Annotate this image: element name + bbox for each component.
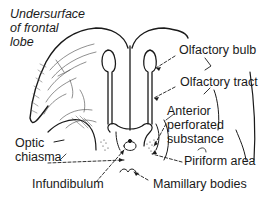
olfactory-bulb-leader	[156, 56, 175, 68]
title-line-3: lobe	[10, 35, 100, 49]
label-olfactory-tract: Olfactory tract	[180, 75, 258, 89]
label-infundibulum: Infundibulum	[32, 177, 104, 191]
brain-underside-diagram: Undersurface of frontal lobe Olfactory b…	[0, 0, 264, 201]
olfactory-tract-leader	[154, 87, 175, 98]
title-line-1: Undersurface	[10, 7, 100, 21]
right-olfactory-bulb-tract	[144, 50, 157, 124]
mamillary-bodies	[120, 169, 136, 172]
label-olfactory-bulb: Olfactory bulb	[179, 43, 256, 57]
label-line-anterior: Anterior	[167, 104, 247, 118]
label-piriform-area: Piriform area	[184, 154, 256, 168]
label-mamillary-bodies: Mamillary bodies	[153, 177, 247, 191]
label-line-optic: Optic	[15, 136, 65, 150]
label-line-chiasma: chiasma	[15, 150, 65, 164]
title-undersurface-frontal-lobe: Undersurface of frontal lobe	[10, 7, 100, 49]
piriform-leader	[152, 154, 182, 162]
label-anterior-perforated-substance: Anterior perforated substance	[167, 104, 247, 146]
title-line-2: of frontal	[10, 21, 100, 35]
label-line-substance: substance	[167, 132, 247, 146]
label-line-perforated: perforated	[167, 118, 247, 132]
label-optic-chiasma: Optic chiasma	[15, 136, 65, 164]
left-olfactory-bulb-tract	[102, 50, 115, 124]
